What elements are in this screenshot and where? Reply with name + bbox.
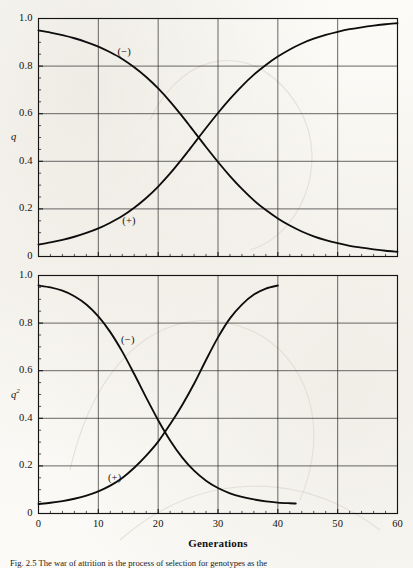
lower-panel-ytick-label: 0.2 [0, 460, 33, 471]
upper-panel-ytick-label: 0 [0, 251, 33, 262]
figure-container: q q2 Generations Fig. 2.5 The war of att… [0, 0, 413, 568]
lower-panel-series-label-minus: (−) [121, 335, 135, 346]
upper-panel-ytick-label: 0.4 [0, 156, 33, 167]
x-axis-title: Generations [39, 538, 398, 549]
xtick-label: 20 [138, 519, 178, 530]
upper-panel-ytick-label: 0.2 [0, 203, 33, 214]
xtick-label: 0 [19, 519, 59, 530]
upper-panel-ytick-label: 0.6 [0, 108, 33, 119]
lower-panel-ytick-label: 1.0 [0, 270, 33, 281]
xtick-label: 50 [318, 519, 358, 530]
xtick-label: 10 [78, 519, 118, 530]
lower-panel-curve-minus [39, 286, 296, 504]
lower-panel-ytick-label: 0 [0, 508, 33, 519]
paper-bleedthrough-arc-2 [70, 321, 314, 500]
y-axis-title-upper: q [11, 132, 16, 143]
y-axis-title-lower: q2 [11, 388, 20, 400]
lower-panel-ytick-label: 0.8 [0, 318, 33, 329]
xtick-label: 40 [258, 519, 298, 530]
xtick-label: 60 [378, 519, 413, 530]
upper-panel-ytick-label: 1.0 [0, 13, 33, 24]
upper-panel-ytick-label: 0.8 [0, 61, 33, 72]
chart-canvas [0, 0, 413, 568]
paper-bleedthrough-arc [150, 60, 312, 250]
lower-panel-series-label-plus: (+) [108, 473, 122, 484]
lower-panel-ytick-label: 0.6 [0, 365, 33, 376]
xtick-label: 30 [198, 519, 238, 530]
lower-panel-ytick-label: 0.4 [0, 413, 33, 424]
upper-panel-series-label-minus: (−) [117, 47, 131, 58]
upper-panel-series-label-plus: (+) [122, 216, 136, 227]
figure-caption: Fig. 2.5 The war of attrition is the pro… [10, 558, 406, 568]
